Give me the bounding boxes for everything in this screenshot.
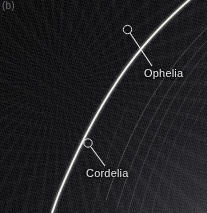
- faint-ring-group: [93, 22, 207, 213]
- ophelia-moon-marker: [123, 25, 131, 33]
- cordelia-leader-line: [91, 147, 105, 166]
- panel-label: (b): [2, 1, 15, 11]
- ring-overlay: [0, 0, 207, 213]
- ophelia-annotation-group: [123, 25, 152, 66]
- figure-panel: (b) Ophelia Cordelia: [0, 0, 207, 213]
- cordelia-moon-marker: [84, 139, 92, 147]
- faint-ring-6: [164, 88, 207, 213]
- faint-ring-inner-streak: [93, 108, 126, 213]
- cordelia-label: Cordelia: [86, 168, 129, 179]
- ophelia-leader-line: [130, 33, 152, 66]
- cordelia-annotation-group: [84, 139, 105, 166]
- ophelia-label: Ophelia: [144, 68, 183, 79]
- faint-ring-4: [140, 58, 207, 213]
- faint-ring-5: [152, 72, 207, 213]
